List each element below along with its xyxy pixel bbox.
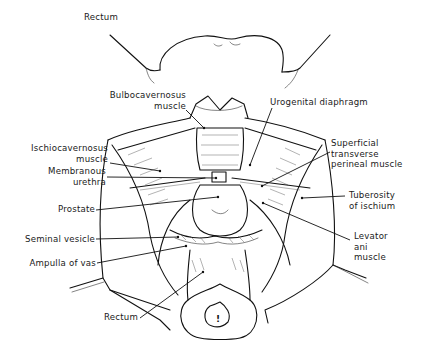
label-ampulla-of-vas: Ampulla of vas [4, 258, 96, 269]
label-membranous-urethra: Membranous urethra [20, 166, 106, 187]
label-urogenital-diaphragm: Urogenital diaphragm [270, 97, 368, 108]
label-ischiocavernosus-muscle: Ischiocavernosus muscle [20, 143, 108, 164]
leader-lines [96, 108, 350, 318]
anatomy-figure: ! Rectum [0, 0, 427, 346]
label-rectum-bottom: Rectum [104, 312, 138, 323]
label-bulbocavernosus-muscle: Bulbocavernosus muscle [104, 90, 186, 111]
label-superficial-transverse-perineal-muscle: Superficial transverse perineal muscle [331, 138, 402, 170]
label-rectum-top: Rectum [84, 12, 118, 23]
anus-marker: ! [216, 314, 220, 324]
label-prostate: Prostate [20, 204, 95, 215]
label-seminal-vesicle: Seminal vesicle [4, 234, 95, 245]
label-levator-ani-muscle: Levator ani muscle [354, 231, 388, 263]
label-tuberosity-of-ischium: Tuberosity of ischium [349, 190, 395, 211]
